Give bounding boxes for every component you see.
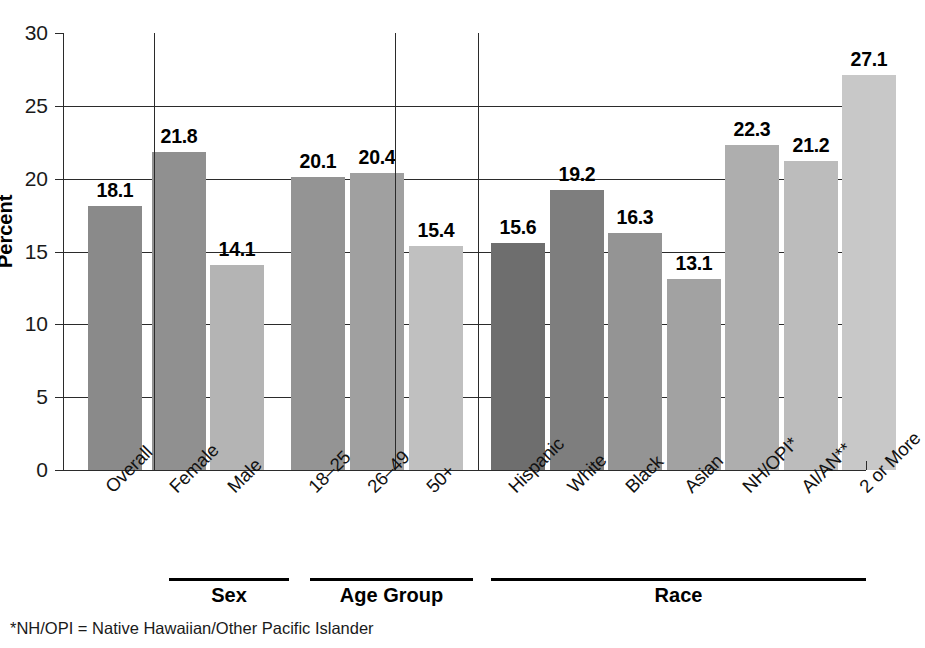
group-band-label: Sex <box>169 584 289 607</box>
bar: 27.1 <box>842 75 896 470</box>
y-axis-tick <box>55 324 63 325</box>
bar-value-label: 21.8 <box>161 125 198 148</box>
group-separator <box>154 33 155 470</box>
y-axis-tick <box>55 252 63 253</box>
bar: 19.2 <box>550 190 604 470</box>
y-tick-label: 30 <box>4 21 48 45</box>
bar-value-label: 21.2 <box>793 134 830 157</box>
bar: 21.2 <box>784 161 838 470</box>
bar: 20.1 <box>291 177 345 470</box>
group-band-label: Age Group <box>310 584 473 607</box>
y-tick-label: 10 <box>4 312 48 336</box>
bar: 18.1 <box>88 206 142 470</box>
bar-value-label: 13.1 <box>676 252 713 275</box>
bar-value-label: 15.6 <box>500 216 537 239</box>
y-tick-label: 20 <box>4 167 48 191</box>
x-axis-left-cap <box>63 461 64 470</box>
group-band-rule <box>491 578 866 581</box>
bar-value-label: 14.1 <box>219 238 256 261</box>
y-axis-tick <box>55 106 63 107</box>
bar-value-label: 22.3 <box>734 118 771 141</box>
plot-area: 18.121.814.120.120.415.415.619.216.313.1… <box>63 33 866 470</box>
bar: 14.1 <box>210 265 264 470</box>
group-band-label: Race <box>491 584 866 607</box>
bar: 22.3 <box>725 145 779 470</box>
y-tick-label: 0 <box>4 458 48 482</box>
y-tick-label: 15 <box>4 240 48 264</box>
bar-value-label: 19.2 <box>559 163 596 186</box>
bar: 21.8 <box>152 152 206 470</box>
bar: 15.4 <box>409 246 463 470</box>
bar-value-label: 27.1 <box>851 48 888 71</box>
bar-value-label: 16.3 <box>617 206 654 229</box>
bar: 15.6 <box>491 243 545 470</box>
y-tick-label: 5 <box>4 385 48 409</box>
footnote: *NH/OPI = Native Hawaiian/Other Pacific … <box>10 619 374 638</box>
y-axis-tick <box>55 470 63 471</box>
bar-value-label: 18.1 <box>97 179 134 202</box>
y-axis-tick <box>55 33 63 34</box>
y-tick-label: 25 <box>4 94 48 118</box>
y-axis-tick <box>55 397 63 398</box>
y-axis-tick <box>55 179 63 180</box>
group-band-rule <box>169 578 289 581</box>
bar-value-label: 15.4 <box>418 219 455 242</box>
bar-value-label: 20.4 <box>359 146 396 169</box>
bar: 16.3 <box>608 233 662 470</box>
group-separator <box>478 33 479 470</box>
group-band-rule <box>310 578 473 581</box>
group-separator <box>395 33 396 470</box>
bar-value-label: 20.1 <box>300 150 337 173</box>
bar: 13.1 <box>667 279 721 470</box>
